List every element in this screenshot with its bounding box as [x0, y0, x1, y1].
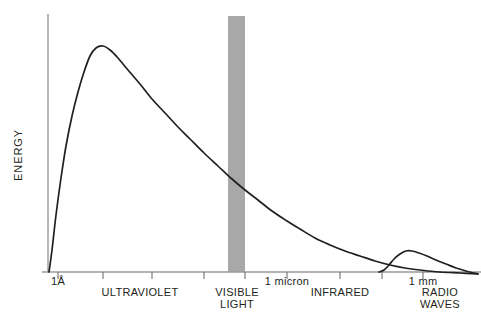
x-tick-label-angstrom: 1Å — [51, 275, 65, 287]
region-label-visible: VISIBLE — [215, 286, 259, 298]
region-label-ultraviolet: ULTRAVIOLET — [102, 286, 179, 298]
region-label-radio: RADIO — [422, 286, 458, 298]
axis-group — [42, 14, 481, 279]
region-label-infrared: INFRARED — [311, 286, 370, 298]
x-tick-label-one-micron: 1 micron — [265, 275, 310, 287]
region-label-light: LIGHT — [220, 298, 254, 310]
y-axis-label: ENERGY — [12, 129, 24, 181]
region-label-waves: WAVES — [420, 298, 460, 310]
chart-canvas: ENERGY 1Å1 micron1 mm ULTRAVIOLETVISIBLE… — [0, 0, 481, 325]
data-curves — [49, 46, 478, 274]
electromagnetic-spectrum-chart: ENERGY 1Å1 micron1 mm ULTRAVIOLETVISIBLE… — [0, 0, 481, 325]
x-axis-ticks — [58, 272, 423, 279]
spectrum-region-labels: ULTRAVIOLETVISIBLELIGHTINFRAREDRADIOWAVE… — [102, 286, 460, 310]
y-axis-label-group: ENERGY — [12, 129, 24, 181]
visible-light-band-group — [228, 16, 245, 272]
visible-light-band — [228, 16, 245, 272]
spectrum-curve — [49, 46, 478, 274]
